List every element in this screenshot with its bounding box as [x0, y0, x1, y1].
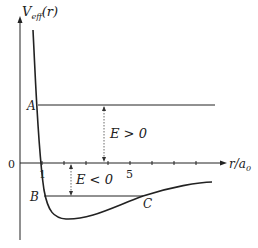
- x-axis-arrow-icon: [220, 161, 227, 166]
- energy-negative-label: E < 0: [75, 172, 113, 187]
- arrow-up-icon: [102, 106, 106, 111]
- origin-label: 0: [8, 158, 15, 171]
- point-a-label: A: [26, 99, 36, 113]
- arrow-down-icon: [69, 191, 73, 196]
- potential-curve: [33, 30, 212, 219]
- effective-potential-diagram: Veff(r) r/a0 0 1 5 A B C E > 0 E < 0: [0, 0, 258, 248]
- energy-positive-label: E > 0: [109, 126, 147, 141]
- y-axis-label: Veff(r): [22, 4, 58, 21]
- point-b-label: B: [29, 190, 39, 204]
- tick-label-1: 1: [39, 168, 46, 181]
- tick-label-5: 5: [126, 168, 133, 181]
- x-axis-label: r/a0: [229, 157, 251, 173]
- point-c-label: C: [143, 197, 152, 211]
- arrow-down-icon: [102, 157, 106, 162]
- arrow-up-icon: [69, 164, 73, 169]
